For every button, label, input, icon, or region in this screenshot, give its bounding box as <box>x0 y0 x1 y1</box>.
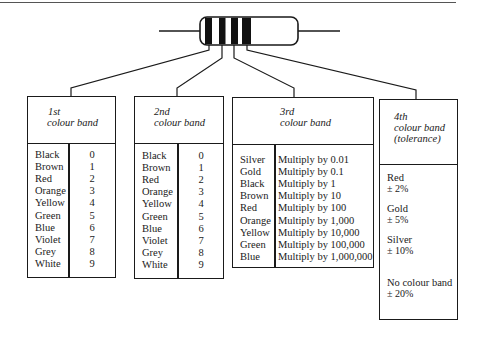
third-band-header: 3rd colour band <box>233 98 373 145</box>
colour-name: Orange <box>142 186 173 198</box>
tolerance-value: ± 2% <box>387 183 408 194</box>
table-row: Blue6 <box>28 222 115 234</box>
tolerance-value: ± 5% <box>387 214 408 225</box>
table-row: White9 <box>135 259 223 271</box>
fourth-band-title-line2: colour band <box>394 122 445 133</box>
third-band-table: SilverMultiply by 0.01GoldMultiply by 0.… <box>233 144 373 267</box>
band-3 <box>231 18 238 44</box>
colour-value: Multiply by 0.01 <box>278 154 349 166</box>
table-row: Violet7 <box>28 234 115 246</box>
colour-name: Brown <box>142 162 171 174</box>
colour-value: Multiply by 1 <box>278 178 336 190</box>
colour-name: Red <box>35 173 52 185</box>
colour-value: 1 <box>179 162 223 174</box>
tolerance-item: No colour band ± 20% <box>387 277 452 299</box>
table-row: RedMultiply by 100 <box>233 202 373 214</box>
tolerance-colour: Silver <box>387 234 413 245</box>
colour-name: White <box>35 258 61 270</box>
table-row: Red2 <box>28 173 115 185</box>
leader-band-4 <box>247 45 416 99</box>
colour-value: 7 <box>179 235 223 247</box>
tolerance-item: Silver ± 10% <box>387 234 413 256</box>
colour-value: 6 <box>70 222 114 234</box>
colour-value: 8 <box>179 247 223 259</box>
table-row: Grey8 <box>135 247 223 259</box>
colour-name: Silver <box>240 154 265 166</box>
colour-value: 9 <box>70 258 114 270</box>
colour-value: Multiply by 100 <box>278 202 346 214</box>
fourth-band-title-line3: (tolerance) <box>394 133 441 144</box>
table-row: GoldMultiply by 0.1 <box>233 166 373 178</box>
colour-value: Multiply by 10 <box>278 190 341 202</box>
colour-name: White <box>142 259 168 271</box>
table-row: BlueMultiply by 1,000,000 <box>233 251 373 263</box>
colour-name: Green <box>35 210 61 222</box>
table-row: Black0 <box>135 150 223 162</box>
table-row: YellowMultiply by 10,000 <box>233 227 373 239</box>
colour-name: Blue <box>142 223 162 235</box>
table-row: Grey8 <box>28 246 115 258</box>
colour-name: Yellow <box>142 198 172 210</box>
colour-value: 0 <box>70 149 114 161</box>
colour-name: Green <box>240 239 266 251</box>
second-band-box: 2nd colour band Black0Brown1Red2Orange3Y… <box>134 96 224 279</box>
table-row: Red2 <box>135 174 223 186</box>
tolerance-colour: Red <box>387 172 408 183</box>
colour-name: Red <box>240 202 257 214</box>
table-row: Green5 <box>135 211 223 223</box>
tolerance-colour: Gold <box>387 203 408 214</box>
colour-name: Red <box>142 174 159 186</box>
colour-value: Multiply by 0.1 <box>278 166 344 178</box>
table-row: Yellow4 <box>135 198 223 210</box>
colour-value: 2 <box>70 173 114 185</box>
second-band-title-line1: 2nd <box>154 106 170 117</box>
tolerance-item: Red ± 2% <box>387 172 408 194</box>
table-row: Orange3 <box>135 186 223 198</box>
colour-name: Brown <box>35 161 64 173</box>
band-1 <box>205 18 212 44</box>
colour-name: Orange <box>240 215 271 227</box>
colour-value: Multiply by 1,000 <box>278 215 354 227</box>
table-row: White9 <box>28 258 115 270</box>
colour-value: Multiply by 1,000,000 <box>278 251 373 263</box>
tolerance-colour: No colour band <box>387 277 452 288</box>
colour-name: Violet <box>142 235 168 247</box>
colour-value: 5 <box>70 210 114 222</box>
colour-name: Orange <box>35 185 66 197</box>
fourth-band-title-line1: 4th <box>394 111 407 122</box>
colour-value: Multiply by 10,000 <box>278 227 359 239</box>
third-band-box: 3rd colour band SilverMultiply by 0.01Go… <box>232 97 374 268</box>
colour-name: Black <box>142 150 167 162</box>
table-row: GreenMultiply by 100,000 <box>233 239 373 251</box>
colour-value: 6 <box>179 223 223 235</box>
table-row: Black0 <box>28 149 115 161</box>
third-band-title-line1: 3rd <box>280 106 294 117</box>
tolerance-value: ± 10% <box>387 245 413 256</box>
table-row: OrangeMultiply by 1,000 <box>233 215 373 227</box>
first-band-title-line2: colour band <box>47 117 98 128</box>
band-4 <box>242 18 251 44</box>
colour-value: 7 <box>70 234 114 246</box>
first-band-title-line1: 1st <box>48 106 60 117</box>
colour-name: Black <box>35 149 60 161</box>
table-row: BrownMultiply by 10 <box>233 190 373 202</box>
second-band-table: Black0Brown1Red2Orange3Yellow4Green5Blue… <box>135 143 223 278</box>
colour-name: Grey <box>142 247 163 259</box>
colour-value: 3 <box>70 185 114 197</box>
table-row: Orange3 <box>28 185 115 197</box>
table-row: Violet7 <box>135 235 223 247</box>
colour-name: Gold <box>240 166 261 178</box>
colour-value: Multiply by 100,000 <box>278 239 365 251</box>
colour-value: 9 <box>179 259 223 271</box>
tolerance-list: Red ± 2% Gold ± 5% Silver ± 10% No colou… <box>380 164 457 319</box>
colour-value: 5 <box>179 211 223 223</box>
colour-value: 4 <box>70 197 114 209</box>
tolerance-value: ± 20% <box>387 288 452 299</box>
colour-name: Blue <box>240 251 260 263</box>
colour-value: 4 <box>179 198 223 210</box>
band-2 <box>219 18 226 44</box>
colour-name: Violet <box>35 234 61 246</box>
colour-value: 1 <box>70 161 114 173</box>
colour-name: Black <box>240 178 265 190</box>
first-band-box: 1st colour band Black0Brown1Red2Orange3Y… <box>27 96 116 278</box>
